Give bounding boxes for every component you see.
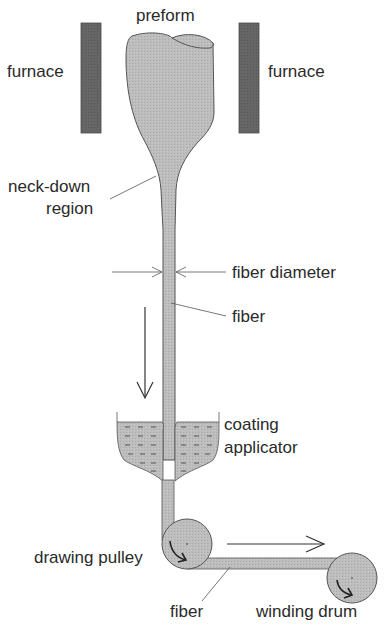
label-coating-1: coating [224,415,279,435]
coated-fiber-horizontal [187,558,352,569]
label-fiber-lower: fiber [170,602,203,622]
label-fiber-diameter: fiber diameter [232,263,336,283]
label-preform: preform [136,6,195,26]
fiber-lower-leader [202,567,230,601]
neck-down-leader [110,176,156,199]
label-furnace-right: furnace [268,62,325,82]
diagram-canvas [0,0,384,639]
drum-hub [351,577,353,579]
pulley-hub [186,543,188,545]
label-neck-down-2: region [46,199,93,219]
label-neck-down-1: neck-down [8,177,90,197]
label-furnace-left: furnace [7,62,64,82]
label-drawing-pulley: drawing pulley [34,548,143,568]
furnace-left [81,23,101,133]
fiber-upper-leader [171,303,226,316]
preform [126,33,214,460]
label-coating-2: applicator [224,438,298,458]
label-fiber-upper: fiber [232,307,265,327]
label-winding-drum: winding drum [256,602,357,622]
furnace-right [239,23,259,133]
